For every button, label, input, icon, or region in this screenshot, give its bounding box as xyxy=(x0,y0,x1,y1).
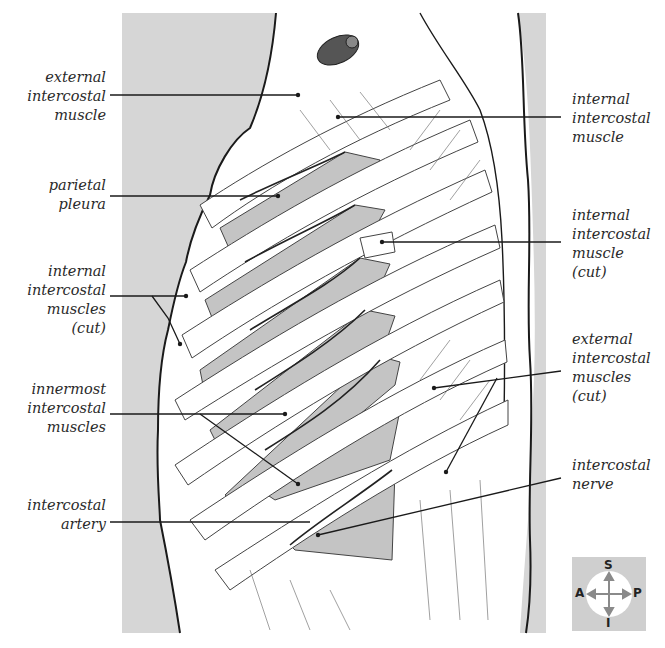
label-internal-intercostal-muscle-cut: internal intercostal muscle (cut) xyxy=(572,206,665,282)
label-intercostal-nerve: intercostal nerve xyxy=(572,456,665,494)
label-external-intercostal-muscle: external intercostal muscle xyxy=(0,68,106,125)
compass-inferior: I xyxy=(606,616,610,630)
compass-superior: S xyxy=(604,558,613,572)
compass-posterior: P xyxy=(633,586,642,600)
label-intercostal-artery: intercostal artery xyxy=(0,496,106,534)
compass-anterior: A xyxy=(575,586,584,600)
label-innermost-intercostal-muscles: innermost intercostal muscles xyxy=(0,380,106,437)
orientation-compass: S I A P xyxy=(572,557,646,631)
label-internal-intercostal-muscles-cut: internal intercostal muscles (cut) xyxy=(0,262,106,338)
vessel-lumen xyxy=(346,36,358,48)
label-external-intercostal-muscles-cut: external intercostal muscles (cut) xyxy=(572,330,665,406)
label-parietal-pleura: parietal pleura xyxy=(0,176,106,214)
label-internal-intercostal-muscle: internal intercostal muscle xyxy=(572,90,665,147)
